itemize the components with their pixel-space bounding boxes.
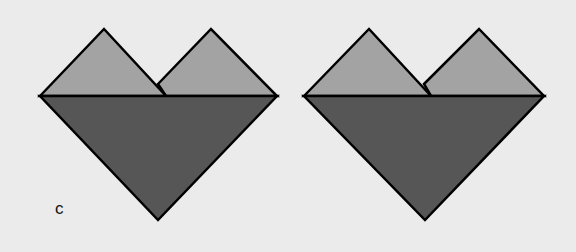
heart-right-top-right-triangle bbox=[424, 29, 544, 96]
heart-right bbox=[304, 29, 544, 220]
heart-right-top-left-triangle bbox=[304, 29, 431, 96]
heart-right-bottom-triangle bbox=[304, 96, 544, 220]
heart-diagram bbox=[0, 0, 576, 252]
heart-left bbox=[40, 29, 277, 220]
heart-left-top-right-triangle bbox=[158, 29, 277, 96]
figure-label: c bbox=[55, 199, 64, 219]
heart-left-top-left-triangle bbox=[40, 29, 166, 96]
heart-left-bottom-triangle bbox=[40, 96, 277, 220]
